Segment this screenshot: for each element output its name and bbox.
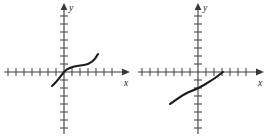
left-y-arrowhead (61, 3, 68, 10)
left-graph-panel: y x (0, 0, 135, 139)
right-x-axis-label: x (257, 78, 263, 88)
right-graph-panel: y x (135, 0, 270, 139)
two-graph-figure: y x (0, 0, 270, 139)
left-x-arrowhead (122, 69, 130, 76)
right-axes (138, 3, 264, 134)
left-cubic-curve (52, 54, 98, 86)
left-y-axis-label: y (68, 3, 74, 13)
right-x-arrowhead (256, 69, 264, 76)
right-cubic-curve (170, 72, 223, 104)
right-y-arrowhead (195, 3, 202, 10)
right-y-axis-label: y (202, 3, 208, 13)
left-x-axis-label: x (123, 78, 129, 88)
